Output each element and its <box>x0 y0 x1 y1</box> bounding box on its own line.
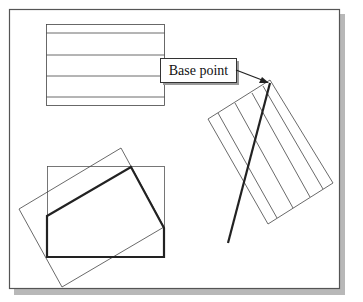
drawing-canvas <box>0 0 363 302</box>
drawing-frame <box>10 10 340 289</box>
base-point-label: Base point <box>161 59 236 82</box>
